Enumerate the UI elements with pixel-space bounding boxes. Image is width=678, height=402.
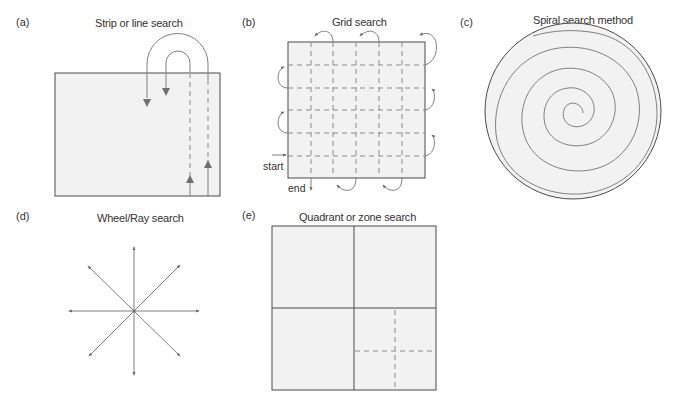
panel-e-quadrant-search: (e) Quadrant or zone search [242,209,436,390]
search-area-circle [485,23,661,199]
panel-c-spiral-search: (c) Spiral search method [460,14,661,199]
search-methods-figure: (a) Strip or line search (b) Grid search [0,0,678,402]
ray-downleft-arrow-icon [89,311,134,356]
panel-c-label: (c) [460,16,473,28]
panel-b-label: (b) [242,16,255,28]
search-area-rectangle [55,73,220,196]
ray-upleft-arrow-icon [88,266,134,311]
start-label: start [263,160,284,172]
panel-e-label: (e) [242,209,255,221]
panel-d-wheel-ray-search: (d) Wheel/Ray search [16,210,199,375]
panel-b-grid-search: (b) Grid search [242,16,436,194]
ray-upright-arrow-icon [134,265,180,311]
panel-a-label: (a) [16,16,29,28]
panel-a-title: Strip or line search [95,17,183,29]
panel-d-title: Wheel/Ray search [97,212,184,224]
ray-center-point [133,310,136,313]
ray-downright-arrow-icon [134,311,180,356]
end-label: end [288,182,306,194]
panel-a-strip-search: (a) Strip or line search [16,16,220,196]
panel-d-label: (d) [16,210,29,222]
panel-b-title: Grid search [332,16,387,28]
panel-e-title: Quadrant or zone search [299,211,416,223]
